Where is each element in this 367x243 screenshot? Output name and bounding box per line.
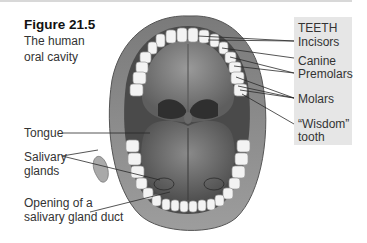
salivary-gland-shape — [93, 156, 108, 182]
uvula — [184, 112, 192, 124]
label-duct-1: Opening of a — [24, 196, 93, 210]
label-premolars: Premolars — [298, 67, 353, 81]
label-duct-2: salivary gland duct — [24, 210, 123, 224]
teeth-heading: TEETH — [298, 21, 337, 35]
label-canine: Canine — [298, 54, 336, 68]
label-salivary-2: glands — [24, 164, 59, 178]
label-wisdom: “Wisdom” — [298, 117, 349, 131]
label-molars: Molars — [298, 92, 334, 106]
label-tongue: Tongue — [24, 126, 63, 140]
label-salivary-1: Salivary — [24, 150, 67, 164]
label-wisdom-tooth: tooth — [298, 130, 325, 144]
label-incisors: Incisors — [298, 35, 339, 49]
